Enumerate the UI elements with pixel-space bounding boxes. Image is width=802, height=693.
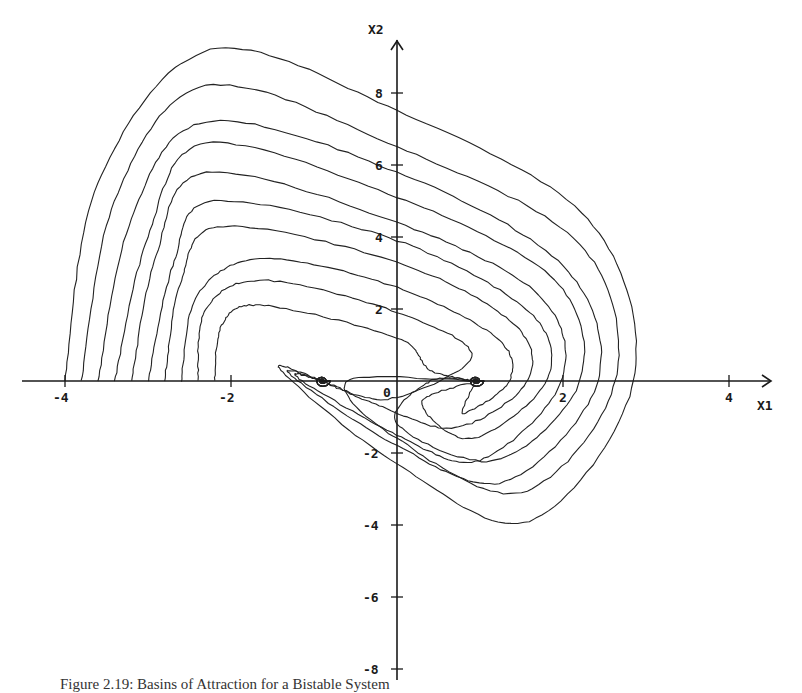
trajectory-curve [114,142,584,462]
x-tick-label: -2 [219,390,235,405]
y-tick-label: 8 [375,86,383,101]
x-tick-label: -4 [53,390,69,405]
trajectories-group [65,48,637,524]
x-axis-label: X1 [757,398,773,413]
y-tick-label: -4 [363,518,379,533]
trajectory-curve [65,48,637,524]
trajectory-curve [81,84,619,494]
x-tick-label: 4 [725,390,733,405]
x-tick-label: 2 [559,390,567,405]
trajectory-curve [149,200,552,439]
axes-group: -4-224 -8-6-4-22468 X1 X2 0 [22,22,773,680]
y-tick-label: -2 [363,446,379,461]
figure-caption: Figure 2.19: Basins of Attraction for a … [60,676,390,693]
y-tick-label: -8 [363,662,379,677]
y-tick-label: 2 [375,302,383,317]
y-tick-label: 4 [375,230,383,245]
y-tick-label: 6 [375,158,383,173]
trajectory-curve [98,120,602,484]
origin-label: 0 [383,385,391,400]
trajectory-curve [198,280,473,400]
y-axis-label: X2 [368,22,384,37]
trajectory-curve [214,305,484,387]
y-tick-label: -6 [363,590,379,605]
trajectory-curve [132,172,566,463]
